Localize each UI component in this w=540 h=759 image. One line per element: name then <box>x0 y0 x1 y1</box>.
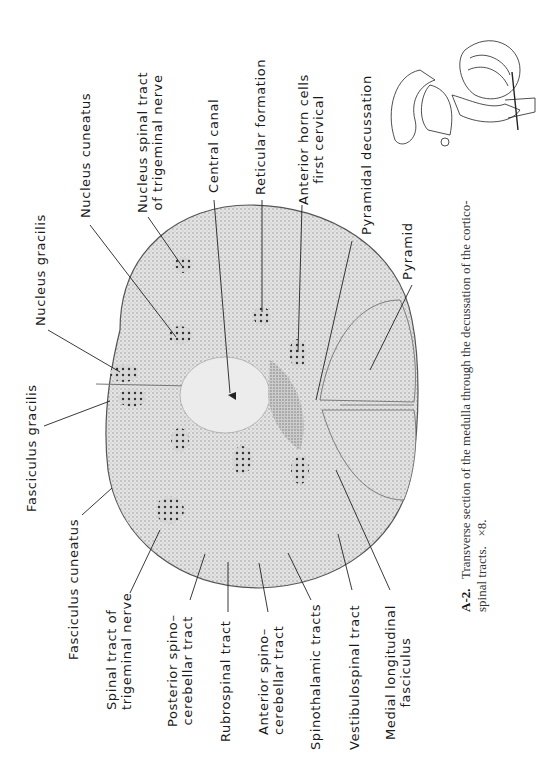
figure-number: A-2. <box>458 589 473 612</box>
label-pyramid: Pyramid <box>400 222 415 280</box>
label-vestibulospinal-tract: Vestibulospinal tract <box>347 605 362 750</box>
label-nucleus-gracilis: Nucleus gracilis <box>33 214 48 326</box>
label-spinal-tract-trigeminal: Spinal tract of trigeminal nerve <box>104 593 134 710</box>
label-spinothalamic-tracts: Spinothalamic tracts <box>308 604 323 750</box>
label-central-canal: Central canal <box>206 99 221 193</box>
label-pyramidal-decussation: Pyramidal decussation <box>359 75 374 235</box>
label-anterior-spinocerebellar-tract: Anterior spino– cerebellar tract <box>256 626 286 735</box>
label-rubrospinal-tract: Rubrospinal tract <box>218 621 233 742</box>
label-medial-longitudinal-fasciculus: Medial longitudinal fasciculus <box>383 605 413 740</box>
figure-page: Nucleus gracilis Nucleus cuneatus Nucleu… <box>0 0 540 759</box>
label-fasciculus-cuneatus: Fasciculus cuneatus <box>66 519 81 660</box>
label-reticular-formation: Reticular formation <box>253 59 268 195</box>
label-nucleus-cuneatus: Nucleus cuneatus <box>78 93 93 218</box>
label-anterior-horn-cells: Anterior horn cells first cervical <box>296 74 326 205</box>
magnification: ×8. <box>474 519 489 536</box>
caption-line-1: Transverse section of the medulla throug… <box>458 200 473 579</box>
label-fasciculus-gracilis: Fasciculus gracilis <box>24 384 39 512</box>
brainstem-orientation-sketch <box>391 41 535 146</box>
figure-caption: A-2. Transverse section of the medulla t… <box>458 200 490 612</box>
caption-line-2: spinal tracts. <box>474 546 489 612</box>
label-posterior-spinocerebellar-tract: Posterior spino– cerebellar tract <box>165 614 195 727</box>
label-nucleus-spinal-tract-trigeminal: Nucleus spinal tract of trigeminal nerve <box>135 72 165 213</box>
